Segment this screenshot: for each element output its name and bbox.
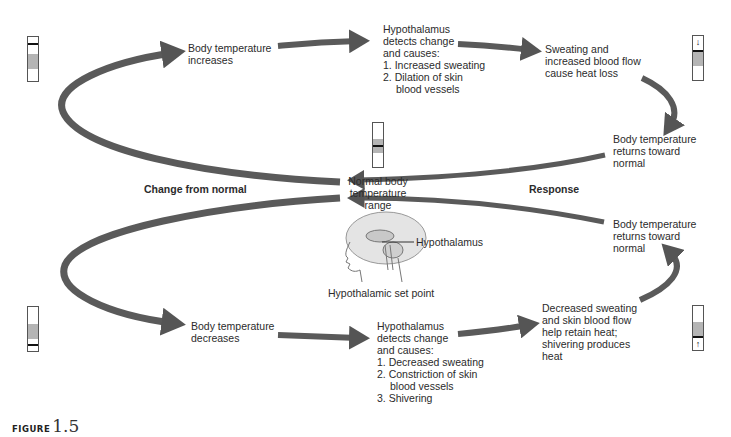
thermometer-low <box>27 306 39 352</box>
arrow-down-icon: ↓ <box>693 37 703 47</box>
thermometer-falling: ↓ <box>692 35 704 81</box>
figure-caption: FIGURE1.5 <box>12 416 79 436</box>
label-hypothalamus-bottom: Hypothalamus detects change and causes: … <box>377 320 484 404</box>
thermometer-rising: ↑ <box>692 305 704 351</box>
thermometer-high <box>27 36 39 82</box>
arrow-increase-to-hypothalamus <box>278 41 358 46</box>
arrow-sweating-to-return <box>642 78 674 126</box>
label-hypothalamus-pointer: Hypothalamus <box>416 236 483 248</box>
label-returns-normal-top: Body temperature returns toward normal <box>613 133 696 169</box>
label-retain-heat: Decreased sweating and skin blood flow h… <box>542 302 637 362</box>
arrow-retain-to-return <box>640 252 677 300</box>
label-set-point: Hypothalamic set point <box>328 287 434 299</box>
label-normal-range: Normal body temperature range <box>343 175 413 211</box>
label-returns-normal-bottom: Body temperature returns toward normal <box>613 218 696 254</box>
thermometer-normal <box>372 122 384 168</box>
label-response: Response <box>529 183 579 195</box>
label-change-from-normal: Change from normal <box>144 183 247 195</box>
label-sweating-heat-loss: Sweating and increased blood flow cause … <box>545 43 641 79</box>
figure-number: 1.5 <box>52 416 79 436</box>
arrow-up-icon: ↑ <box>693 339 703 349</box>
head-profile-icon <box>346 212 426 282</box>
label-hypothalamus-top: Hypothalamus detects change and causes: … <box>383 23 485 95</box>
figure-word: FIGURE <box>12 424 50 434</box>
arrow-normal-to-decrease <box>64 198 340 323</box>
arrow-normal-to-increase <box>62 53 340 182</box>
label-temp-decreases: Body temperature decreases <box>191 320 274 344</box>
label-temp-increases: Body temperature increases <box>188 42 271 66</box>
arrow-decrease-to-hypothalamus <box>278 335 358 338</box>
